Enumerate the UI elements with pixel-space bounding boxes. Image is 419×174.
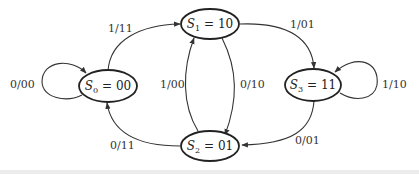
edge-label-s3-s2: 0/01: [295, 134, 320, 147]
edge-s2-to-s1: [185, 38, 198, 131]
svg-text:S0 = 00: S0 = 00: [85, 79, 131, 95]
state-s3: S3 = 11: [285, 69, 341, 101]
svg-text:S3 = 11: S3 = 11: [290, 78, 336, 94]
edge-label-s2-s1: 1/00: [160, 78, 185, 91]
state-s2: S2 = 01: [181, 131, 239, 161]
edge-label-s0-self: 0/00: [10, 78, 35, 91]
edge-label-s0-s1: 1/11: [108, 22, 133, 35]
bottom-divider: [0, 170, 419, 174]
state-diagram: 0/00 1/11 1/01 0/10 1/00 0/11 1/10 0/01 …: [0, 0, 419, 170]
edge-label-s3-self: 1/10: [382, 78, 407, 91]
edge-label-s1-s2: 0/10: [240, 78, 265, 91]
edge-s3-self: [335, 62, 377, 99]
state-s1: S1 = 10: [181, 9, 239, 39]
state-s0: S0 = 00: [79, 70, 137, 102]
svg-text:S2 = 01: S2 = 01: [187, 139, 233, 155]
edge-label-s1-s3: 1/01: [290, 18, 315, 31]
edge-s1-to-s2: [222, 38, 234, 135]
svg-text:S1 = 10: S1 = 10: [187, 17, 233, 33]
edge-label-s2-s0: 0/11: [110, 139, 135, 152]
